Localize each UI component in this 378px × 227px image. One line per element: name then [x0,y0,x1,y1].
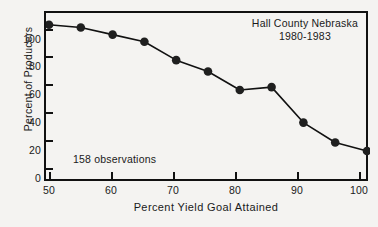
data-point [204,67,213,76]
chart-title-line2: 1980-1983 [252,30,358,43]
y-tick-60 [46,84,53,86]
data-point [236,86,245,95]
x-tick-50 [49,172,51,179]
data-point [299,118,308,127]
chart-title: Hall County Nebraska 1980-1983 [252,17,358,43]
y-tick-80 [46,56,53,58]
chart-figure: 100 80 60 40 20 0 Percent of Producers [0,0,378,227]
data-point [46,20,53,29]
x-tick-70 [173,172,175,179]
y-tick-40 [46,112,53,114]
y-tick-label-0: 0 [4,173,41,184]
data-point [140,37,149,46]
x-tick-60 [111,172,113,179]
x-axis-tick-labels: 50 60 70 80 90 100 [44,185,368,198]
y-axis-tick-labels: 100 80 60 40 20 0 [0,11,41,181]
observations-annotation: 158 observations [73,153,156,165]
x-axis-title: Percent Yield Goal Attained [44,201,368,213]
x-tick-100 [359,172,361,179]
y-axis-title: Percent of Producers [22,0,34,159]
x-tick-80 [235,172,237,179]
data-point [172,56,181,65]
data-point [108,30,117,39]
x-tick-label-70: 70 [167,185,179,196]
data-point [331,138,340,147]
data-point [77,23,86,32]
y-tick-100 [46,29,53,31]
plot-inner: Hall County Nebraska 1980-1983 158 obser… [46,13,366,179]
chart-title-line1: Hall County Nebraska [252,17,358,30]
series-polyline [49,25,367,151]
x-tick-label-90: 90 [291,185,303,196]
plot-area: Hall County Nebraska 1980-1983 158 obser… [44,11,368,181]
y-tick-20 [46,140,53,142]
x-tick-label-50: 50 [43,185,55,196]
x-tick-label-80: 80 [229,185,241,196]
y-tick-0 [46,168,53,170]
x-tick-label-60: 60 [105,185,117,196]
data-point [267,83,276,92]
x-tick-label-100: 100 [350,185,368,196]
data-point [363,147,370,156]
x-tick-90 [297,172,299,179]
